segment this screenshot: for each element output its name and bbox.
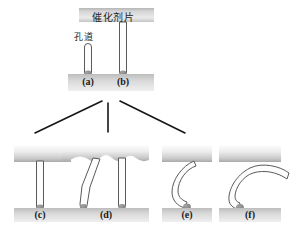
panel-b-pore (120, 22, 127, 76)
branch-right-line (120, 101, 185, 133)
panel-label-d: (d) (96, 209, 116, 220)
panel-e-top-slab (162, 146, 212, 162)
panel-label-a: (a) (78, 76, 98, 87)
connector-lines (35, 101, 185, 133)
panel-label-b: (b) (113, 76, 133, 87)
panel-f-pore-hooked (229, 165, 289, 209)
catalyst-slice-label: 催化剂片 (92, 9, 134, 24)
panel-d-top-slab-rough (62, 146, 149, 161)
figure-root: 催化剂片 孔道 (a) (b) (c) (d) (e) (f) (0, 0, 306, 247)
panel-label-f: (f) (240, 209, 260, 220)
panel-label-e: (e) (177, 209, 197, 220)
panel-d-pore-right (119, 158, 126, 209)
panel-label-c: (c) (30, 209, 50, 220)
branch-left-line (35, 101, 102, 133)
panel-e-pore-curved (172, 161, 196, 208)
panel-c-pore (37, 161, 44, 210)
panel-d-pore-left (80, 158, 100, 209)
pore-channel-label: 孔道 (74, 30, 93, 43)
panel-f-top-slab (219, 146, 281, 162)
